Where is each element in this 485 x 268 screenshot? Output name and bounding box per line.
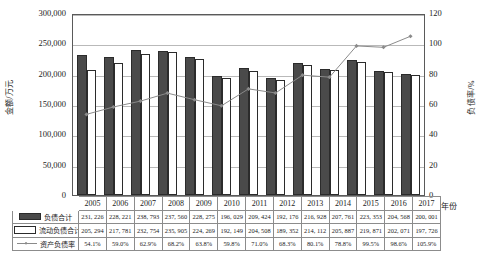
table-cell: 214, 112 (301, 224, 329, 238)
bar-group (181, 15, 208, 195)
table-cell: 78.8% (329, 237, 357, 251)
table-header-year: 2016 (385, 197, 413, 211)
table-cell: 202, 071 (385, 224, 413, 238)
table-row-total-liabilities: 负债合计231, 226228, 221238, 793237, 560228,… (13, 210, 441, 224)
table-cell: 80.1% (301, 237, 329, 251)
table-header-year: 2014 (329, 197, 357, 211)
bar-group (343, 15, 370, 195)
table-cell: 209, 424 (246, 210, 274, 224)
y-axis-left-tick: 150,000 (6, 100, 66, 109)
table-cell: 224, 269 (190, 224, 218, 238)
bar-group (100, 15, 127, 195)
table-row-debt-ratio: 资产负债率54.1%59.0%62.9%68.2%63.8%59.8%71.0%… (13, 237, 441, 251)
bar-total-liabilities (212, 76, 222, 195)
bar-total-liabilities (131, 50, 141, 195)
table-header-year: 2008 (162, 197, 190, 211)
table-cell: 59.8% (218, 237, 246, 251)
legend-label: 负债合计 (44, 212, 72, 222)
y-axis-right-tick: 100 (429, 39, 461, 48)
table-cell: 204, 568 (385, 210, 413, 224)
table-cell: 98.6% (385, 237, 413, 251)
table-cell: 105.9% (413, 237, 441, 251)
table-header-year: 2005 (79, 197, 107, 211)
table-header-row: 2005200620072008200920102011201220132014… (13, 197, 441, 211)
bar-total-liabilities (347, 60, 357, 196)
bar-group (235, 15, 262, 195)
y-axis-right-tick: 80 (429, 70, 461, 79)
table-cell: 99.5% (357, 237, 385, 251)
legend-swatch-filled-bar-icon (19, 213, 41, 220)
y-axis-left-title: 金额/万元 (3, 74, 14, 122)
bar-group (262, 15, 289, 195)
bar-total-liabilities (293, 63, 303, 195)
y-axis-right-tick: 20 (429, 161, 461, 170)
legend-label: 流动负债合计 (39, 225, 79, 235)
y-axis-right-title: 负债率/% (465, 74, 476, 122)
bar-current-liabilities (195, 59, 205, 195)
bar-group (208, 15, 235, 195)
data-table: 2005200620072008200920102011201220132014… (12, 196, 441, 251)
table-cell: 217, 781 (106, 224, 134, 238)
table-header-year: 2015 (357, 197, 385, 211)
legend-label: 资产负债率 (40, 239, 75, 249)
bar-total-liabilities (77, 55, 87, 195)
table-cell: 232, 754 (134, 224, 162, 238)
table-cell: 54.1% (79, 237, 107, 251)
bar-current-liabilities (411, 75, 421, 195)
table-cell: 238, 793 (134, 210, 162, 224)
bar-current-liabilities (276, 80, 286, 195)
table-row-current-liabilities: 流动负债合计205, 294217, 781232, 754235, 90522… (13, 224, 441, 238)
table-cell: 205, 294 (79, 224, 107, 238)
table-cell: 205, 887 (329, 224, 357, 238)
bar-current-liabilities (114, 63, 124, 195)
table-cell: 59.0% (106, 237, 134, 251)
y-axis-left-tick: 100,000 (6, 130, 66, 139)
bar-current-liabilities (87, 70, 97, 195)
chart-figure: 金额/万元 负债率/% 年份 050,000100,000150,000200,… (0, 0, 485, 268)
table-header-year: 2012 (273, 197, 301, 211)
bar-group (73, 15, 100, 195)
table-header-year: 2007 (134, 197, 162, 211)
y-axis-left-tick: 200,000 (6, 70, 66, 79)
bar-total-liabilities (239, 68, 249, 195)
table-header-year: 2010 (218, 197, 246, 211)
table-cell: 192, 149 (218, 224, 246, 238)
bar-current-liabilities (168, 52, 178, 195)
bar-total-liabilities (158, 51, 168, 195)
bar-total-liabilities (374, 71, 384, 195)
table-cell: 207, 761 (329, 210, 357, 224)
table-cell: 71.0% (246, 237, 274, 251)
bar-groups (73, 15, 424, 195)
table-cell: 228, 275 (190, 210, 218, 224)
y-axis-left-tick: 300,000 (6, 9, 66, 18)
table-header-year: 2017 (413, 197, 441, 211)
bar-total-liabilities (320, 69, 330, 195)
table-cell: 197, 726 (413, 224, 441, 238)
table-cell: 228, 221 (106, 210, 134, 224)
y-axis-right-tick: 60 (429, 100, 461, 109)
bar-current-liabilities (303, 65, 313, 195)
table-cell: 196, 029 (218, 210, 246, 224)
bar-group (154, 15, 181, 195)
y-axis-left-tick: 250,000 (6, 39, 66, 48)
bar-total-liabilities (104, 57, 114, 195)
table-cell: 68.3% (273, 237, 301, 251)
legend-item: 资产负债率 (13, 237, 79, 251)
table-header-year: 2009 (190, 197, 218, 211)
bar-total-liabilities (266, 78, 276, 195)
table-header-year: 2006 (106, 197, 134, 211)
table-cell: 223, 353 (357, 210, 385, 224)
table-cell: 62.9% (134, 237, 162, 251)
table-cell: 231, 226 (79, 210, 107, 224)
y-axis-left-tick: 50,000 (6, 161, 66, 170)
legend-header-blank (13, 197, 79, 211)
y-axis-right-tick: 120 (429, 9, 461, 18)
bar-group (289, 15, 316, 195)
bar-current-liabilities (141, 54, 151, 195)
bar-current-liabilities (222, 78, 232, 195)
legend-swatch-hollow-bar-icon (14, 226, 36, 234)
table-cell: 189, 352 (273, 224, 301, 238)
bar-total-liabilities (401, 74, 411, 195)
legend-item: 流动负债合计 (13, 224, 79, 238)
table-header-year: 2011 (246, 197, 274, 211)
